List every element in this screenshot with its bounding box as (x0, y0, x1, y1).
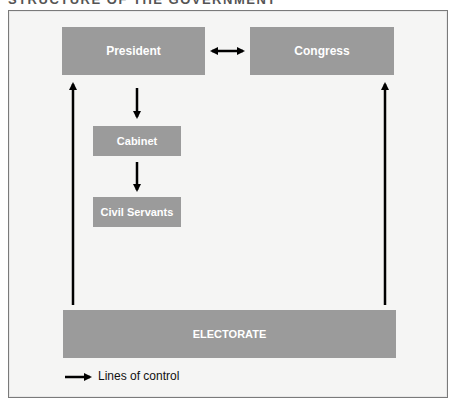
connector-arrows (0, 0, 455, 405)
legend-label: Lines of control (98, 369, 179, 383)
